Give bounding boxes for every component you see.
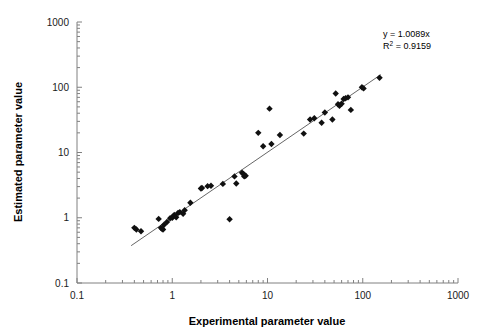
- x-axis-title: Experimental parameter value: [189, 315, 346, 327]
- x-tick-label: 10: [262, 290, 274, 301]
- scatter-chart: 0.11101001000 0.11101001000 Experimental…: [0, 0, 480, 334]
- x-tick-label: 100: [354, 290, 371, 301]
- y-tick-label: 100: [52, 82, 69, 93]
- r-squared-value: = 0.9159: [393, 41, 431, 51]
- y-axis-title: Estimated parameter value: [12, 82, 24, 222]
- chart-canvas: 0.11101001000 0.11101001000 Experimental…: [0, 0, 480, 334]
- x-tick-label: 1: [169, 290, 175, 301]
- x-tick-label: 0.1: [70, 290, 84, 301]
- y-tick-label: 1: [63, 212, 69, 223]
- y-tick-label: 0.1: [55, 278, 69, 289]
- y-tick-label: 1000: [47, 17, 70, 28]
- y-tick-label: 10: [58, 147, 70, 158]
- x-tick-label: 1000: [447, 290, 470, 301]
- fit-equation-label: y = 1.0089x: [383, 29, 430, 39]
